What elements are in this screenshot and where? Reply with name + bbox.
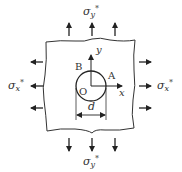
sigma-y-bottom-label: σy*	[83, 154, 99, 169]
sigma-x-right-label: σx*	[157, 78, 173, 93]
top-stress-arrows	[69, 23, 115, 36]
stress-diagram: σy* σy* σx* σx* B A O x y d	[0, 0, 182, 172]
point-b-label: B	[75, 61, 82, 72]
bottom-stress-arrows	[69, 138, 115, 151]
right-stress-arrows	[139, 62, 151, 108]
origin-label: O	[79, 86, 87, 97]
point-a-label: A	[107, 70, 116, 81]
axis-y-label: y	[95, 44, 102, 55]
sigma-x-left-label: σx*	[8, 78, 24, 93]
sigma-y-top-label: σy*	[83, 4, 99, 19]
left-stress-arrows	[31, 62, 43, 108]
axis-x-label: x	[119, 87, 125, 98]
diameter-label: d	[88, 100, 95, 113]
